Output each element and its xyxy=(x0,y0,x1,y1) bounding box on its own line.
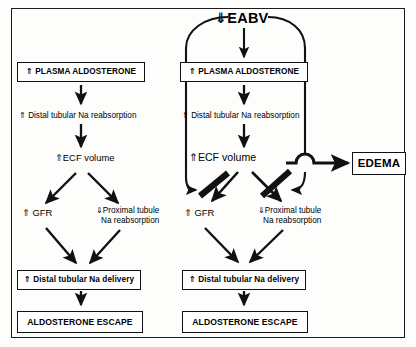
figure-root: ⇓EABV ⇑ PLASMA ALDOSTERONE ⇑ Distal tubu… xyxy=(0,0,416,347)
left-aldosterone-escape-box: ALDOSTERONE ESCAPE xyxy=(17,311,143,333)
right-distal-delivery-box: ⇑ Distal tubular Na delivery xyxy=(182,270,306,290)
right-aldosterone-escape-box: ALDOSTERONE ESCAPE xyxy=(182,311,308,333)
left-proximal-tubule-label-line2: Na reabsorption xyxy=(101,216,159,225)
left-distal-reabsorption-label: ⇑ Distal tubular Na reabsorption xyxy=(19,111,136,120)
left-distal-delivery-box: ⇑ Distal tubular Na delivery xyxy=(17,270,141,290)
left-proximal-tubule-label-line1: ⇓Proximal tubule xyxy=(96,206,159,215)
right-proximal-tubule-label-line2: Na reabsorption xyxy=(263,216,321,225)
left-ecf-volume-label: ⇑ECF volume xyxy=(55,153,114,164)
left-plasma-aldosterone-box: ⇑ PLASMA ALDOSTERONE xyxy=(17,62,145,82)
right-plasma-aldosterone-box: ⇑ PLASMA ALDOSTERONE xyxy=(180,62,308,82)
right-distal-reabsorption-label: ⇑ Distal tubular Na reabsorption xyxy=(182,111,299,120)
right-ecf-volume-label: ⇑ECF volume xyxy=(189,152,256,164)
right-gfr-label: ⇑ GFR xyxy=(184,208,214,219)
eabv-title: ⇓EABV xyxy=(215,10,268,26)
edema-box: EDEMA xyxy=(352,152,406,175)
left-gfr-label: ⇑ GFR xyxy=(22,208,52,219)
right-proximal-tubule-label-line1: ⇓Proximal tubule xyxy=(258,206,321,215)
